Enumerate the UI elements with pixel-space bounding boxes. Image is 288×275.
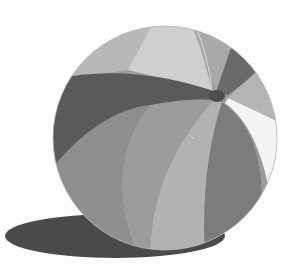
- beach-ball-svg: [0, 0, 288, 275]
- beach-ball-illustration: [0, 0, 288, 275]
- ball-cap: [209, 90, 225, 102]
